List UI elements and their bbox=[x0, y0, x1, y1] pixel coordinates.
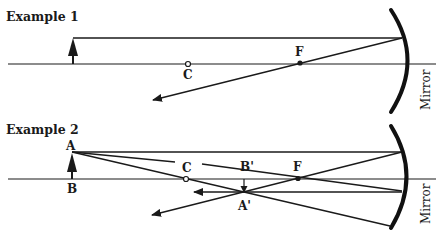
ray-diagram: Example 1 C F Mirror Example 2 A B bbox=[0, 0, 441, 237]
focus-label: F bbox=[295, 45, 304, 59]
focus-point bbox=[295, 176, 300, 181]
concave-mirror bbox=[391, 126, 407, 228]
focus-point bbox=[297, 60, 302, 65]
example-2-title: Example 2 bbox=[6, 122, 79, 137]
object-top-label: A bbox=[65, 139, 76, 153]
focus-label: F bbox=[293, 160, 302, 174]
image-base-label: B' bbox=[240, 160, 254, 174]
example-2: Example 2 A B B' A' C F M bbox=[6, 122, 436, 228]
center-point bbox=[186, 62, 191, 67]
center-label: C bbox=[183, 68, 193, 82]
incident-ray-focus-a bbox=[72, 152, 175, 162]
example-1-title: Example 1 bbox=[6, 9, 79, 24]
object-arrow-icon bbox=[68, 38, 78, 64]
incident-ray-center bbox=[72, 152, 390, 226]
mirror-label: Mirror bbox=[419, 183, 433, 224]
object-arrow-icon bbox=[67, 153, 77, 179]
object-base-label: B bbox=[67, 182, 77, 196]
image-top-label: A' bbox=[237, 199, 251, 213]
mirror-label: Mirror bbox=[419, 69, 433, 110]
center-point bbox=[184, 177, 189, 182]
concave-mirror bbox=[391, 10, 408, 112]
center-label: C bbox=[182, 161, 192, 175]
incident-ray-focus-b bbox=[202, 164, 402, 191]
example-1: Example 1 C F Mirror bbox=[6, 9, 436, 112]
